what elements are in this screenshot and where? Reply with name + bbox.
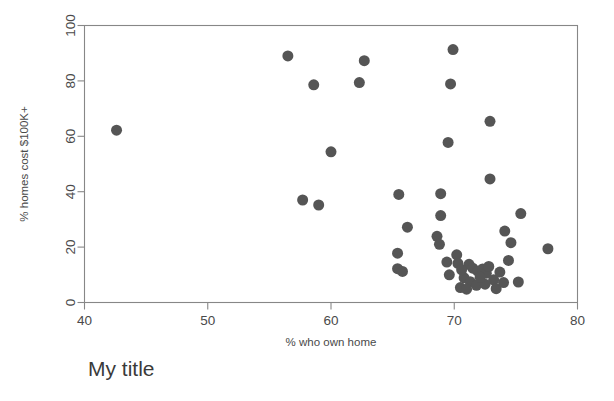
data-point <box>392 248 403 259</box>
data-point <box>326 146 337 157</box>
x-tick-label-80: 80 <box>570 313 585 328</box>
data-point <box>397 266 408 277</box>
x-tick-label-40: 40 <box>77 313 92 328</box>
data-point <box>445 78 456 89</box>
y-tick-label-100: 100 <box>63 14 78 37</box>
scatter-plot-figure: 4050607080 020406080100 % who own home %… <box>0 0 614 401</box>
y-tick-label-40: 40 <box>63 184 78 199</box>
x-axis-label: % who own home <box>286 336 377 348</box>
y-tick-label-60: 60 <box>63 129 78 144</box>
data-point <box>483 261 494 272</box>
y-tick-label-0: 0 <box>63 299 78 307</box>
data-point <box>515 208 526 219</box>
data-point <box>494 267 505 278</box>
data-point <box>354 77 365 88</box>
data-point <box>441 257 452 268</box>
data-point <box>503 255 514 266</box>
data-point <box>448 44 459 55</box>
data-point <box>443 137 454 148</box>
x-tick-label-60: 60 <box>323 313 338 328</box>
data-point <box>308 79 319 90</box>
x-tick-label-70: 70 <box>447 313 462 328</box>
y-axis-label: % homes cost $100K+ <box>18 106 30 222</box>
data-point <box>475 272 486 283</box>
y-tick-label-80: 80 <box>63 73 78 88</box>
data-point <box>359 55 370 66</box>
data-point <box>513 277 524 288</box>
data-point <box>505 237 516 248</box>
plot-title: My title <box>88 357 155 380</box>
data-point <box>435 210 446 221</box>
data-point <box>444 269 455 280</box>
data-point <box>461 284 472 295</box>
data-point <box>542 243 553 254</box>
data-point <box>402 222 413 233</box>
y-tick-label-20: 20 <box>63 240 78 255</box>
plot-svg: 4050607080 020406080100 % who own home %… <box>0 0 614 401</box>
data-point <box>111 125 122 136</box>
data-point <box>498 277 509 288</box>
data-point <box>393 189 404 200</box>
data-point <box>282 50 293 61</box>
data-point <box>484 116 495 127</box>
data-point <box>434 239 445 250</box>
data-point <box>435 188 446 199</box>
x-tick-label-50: 50 <box>200 313 215 328</box>
data-point <box>456 264 467 275</box>
data-point <box>297 195 308 206</box>
data-point <box>499 226 510 237</box>
data-point <box>484 173 495 184</box>
data-point <box>313 199 324 210</box>
